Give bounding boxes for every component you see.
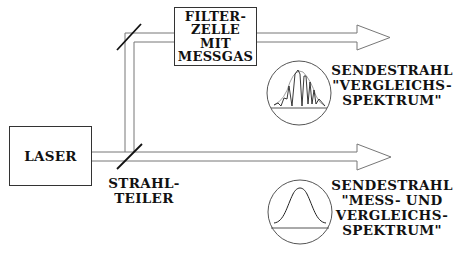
reference-beam-label: SENDESTRAHL "VERGLEICHS- SPEKTRUM" bbox=[328, 63, 456, 108]
lower-arrow-head-icon bbox=[357, 144, 391, 170]
filter-cell-box: FILTER- ZELLE MIT MESSGAS bbox=[174, 7, 257, 66]
beam-splitter-icon bbox=[117, 144, 142, 169]
filter-cell-label: FILTER- ZELLE MIT MESSGAS bbox=[178, 10, 253, 64]
measurement-beam-label: SENDESTRAHL "MESS- UND VERGLEICHS- SPEKT… bbox=[328, 178, 456, 238]
measurement-spectrum-icon bbox=[268, 180, 332, 244]
beam-splitter-label: STRAHL- TEILER bbox=[104, 176, 184, 206]
reference-spectrum-icon bbox=[267, 61, 331, 125]
vertical-beam bbox=[125, 33, 134, 152]
upper-arrow-head-icon bbox=[357, 25, 390, 50]
mirror-icon bbox=[117, 24, 141, 50]
laser-label: LASER bbox=[24, 149, 77, 164]
laser-box: LASER bbox=[9, 126, 92, 186]
